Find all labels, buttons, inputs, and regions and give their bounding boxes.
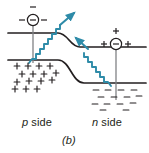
- p-side-charge-cloud: [12, 63, 59, 92]
- pn-junction-figure: p side n side (b): [0, 0, 149, 153]
- p-side-label: p side: [22, 116, 52, 128]
- plus-sign: [36, 63, 42, 69]
- panel-label: (b): [62, 134, 76, 146]
- band-diagram-canvas: [0, 0, 149, 153]
- plus-sign: [30, 71, 36, 77]
- plus-sign: [25, 63, 31, 69]
- n-side-label: n side: [92, 116, 122, 128]
- plus-sign: [34, 86, 40, 92]
- plus-sign: [41, 71, 47, 77]
- photon-emitted-n-side: [76, 38, 111, 86]
- plus-sign: [14, 63, 20, 69]
- p-side-label-rest: side: [28, 116, 52, 128]
- plus-sign: [47, 63, 53, 69]
- plus-sign: [12, 86, 18, 92]
- plus-sign: [53, 70, 59, 76]
- plus-sign: [49, 77, 55, 83]
- n-side-charge-cloud: [92, 90, 142, 110]
- plus-sign: [14, 79, 20, 85]
- plus-sign: [38, 78, 44, 84]
- plus-sign: [26, 78, 32, 84]
- electron-symbol-n-side: [110, 38, 121, 49]
- plus-sign: [23, 86, 29, 92]
- plus-sign: [19, 71, 25, 77]
- n-side-label-rest: side: [98, 116, 122, 128]
- electron-symbol-p-side: [27, 14, 38, 25]
